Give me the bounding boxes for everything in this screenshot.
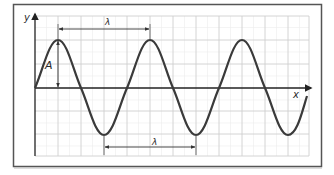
wavelength-bottom-label: λ (151, 137, 157, 147)
x-axis-label: x (292, 89, 299, 100)
y-axis-label: y (23, 12, 31, 23)
amplitude-label: A (44, 59, 53, 72)
wave-diagram: A λ λ y x (0, 0, 334, 175)
wavelength-top-label: λ (104, 17, 110, 27)
